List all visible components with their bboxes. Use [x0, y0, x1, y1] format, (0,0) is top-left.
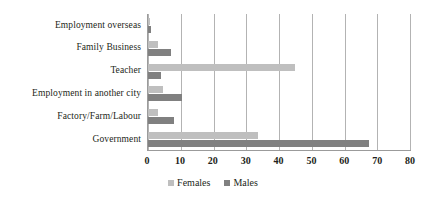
bar-males: [148, 117, 174, 124]
x-axis-line: [147, 150, 411, 151]
bar-row: [148, 105, 410, 128]
x-tick-label: 80: [405, 153, 415, 169]
bar-row: [148, 128, 410, 151]
bar-females: [148, 86, 163, 93]
bar-males: [148, 140, 369, 147]
bar-chart: Employment overseasFamily BusinessTeache…: [0, 0, 426, 210]
bar-females: [148, 18, 150, 25]
category-label: Factory/Farm/Labour: [0, 105, 145, 128]
bar-males: [148, 72, 161, 79]
chart-legend: FemalesMales: [0, 178, 426, 188]
x-tick-label: 60: [339, 153, 349, 169]
x-tick-label: 20: [208, 153, 218, 169]
males-swatch: [224, 180, 230, 186]
bar-males: [148, 94, 182, 101]
legend-label: Females: [177, 178, 210, 188]
category-label: Family Business: [0, 37, 145, 60]
legend-item: Males: [224, 178, 257, 188]
bar-row: [148, 60, 410, 83]
category-label: Employment in another city: [0, 82, 145, 105]
legend-item: Females: [168, 178, 210, 188]
bar-females: [148, 41, 158, 48]
bar-females: [148, 109, 158, 116]
bar-row: [148, 14, 410, 37]
x-tick-label: 30: [241, 153, 251, 169]
bar-rows: [148, 14, 410, 151]
bar-females: [148, 132, 258, 139]
bar-males: [148, 49, 171, 56]
bar-males: [148, 26, 151, 33]
x-tick-label: 0: [145, 153, 150, 169]
category-axis: Employment overseasFamily BusinessTeache…: [0, 14, 145, 151]
category-label: Teacher: [0, 60, 145, 83]
bar-row: [148, 37, 410, 60]
bar-row: [148, 82, 410, 105]
x-tick-label: 10: [175, 153, 185, 169]
legend-label: Males: [233, 178, 257, 188]
x-tick-label: 70: [372, 153, 382, 169]
gridline: [410, 14, 411, 151]
x-tick-label: 40: [274, 153, 284, 169]
category-label: Government: [0, 128, 145, 151]
females-swatch: [168, 180, 174, 186]
x-tick-label: 50: [306, 153, 316, 169]
plot-area: [147, 14, 410, 151]
category-label: Employment overseas: [0, 14, 145, 37]
bar-females: [148, 64, 295, 71]
x-axis-ticks: 01020304050607080: [147, 153, 410, 169]
